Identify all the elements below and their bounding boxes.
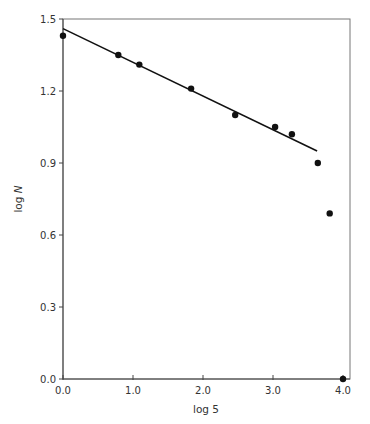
plot-frame (63, 19, 350, 379)
y-tick-label: 1.2 (40, 86, 56, 97)
data-point (272, 124, 278, 130)
data-point (289, 131, 295, 137)
y-tick-label: 0.3 (40, 302, 56, 313)
y-tick-label: 0.9 (40, 158, 56, 169)
y-tick-label: 1.5 (40, 14, 56, 25)
y-tick-label: 0.0 (40, 374, 56, 385)
y-tick-label: 0.6 (40, 230, 56, 241)
data-point (136, 61, 142, 67)
x-axis-label: log 5 (193, 403, 219, 415)
data-point (232, 112, 238, 118)
plot-border (63, 19, 350, 379)
scatter-chart: 0.01.02.03.04.0 0.00.30.60.91.21.5 log 5… (0, 0, 370, 424)
x-tick-label: 3.0 (265, 385, 281, 396)
y-axis-ticks: 0.00.30.60.91.21.5 (40, 14, 63, 385)
x-axis-ticks: 0.01.02.03.04.0 (55, 375, 351, 396)
x-tick-label: 2.0 (195, 385, 211, 396)
data-series (60, 29, 346, 383)
x-tick-label: 4.0 (335, 385, 351, 396)
data-point (115, 52, 121, 58)
data-point (327, 210, 333, 216)
data-point (315, 160, 321, 166)
data-point (60, 33, 66, 39)
x-tick-label: 1.0 (125, 385, 141, 396)
data-point (188, 85, 194, 91)
data-point (340, 376, 346, 382)
x-tick-label: 0.0 (55, 385, 71, 396)
y-axis-label: log N (12, 185, 24, 212)
